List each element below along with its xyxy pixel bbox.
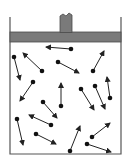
gas-particle: [20, 80, 35, 101]
velocity-arrow-icon: [20, 82, 33, 101]
particle-dot-icon: [12, 55, 17, 60]
particle-dot-icon: [31, 80, 36, 85]
gas-particles: [12, 47, 113, 154]
gas-particle: [29, 115, 53, 127]
velocity-arrow-icon: [87, 144, 111, 152]
particle-dot-icon: [108, 96, 113, 101]
gas-particle: [59, 83, 64, 108]
particle-dot-icon: [79, 87, 84, 92]
particle-dot-icon: [85, 142, 90, 147]
piston: [10, 13, 121, 42]
gas-particle: [107, 77, 112, 100]
gas-particle: [46, 47, 73, 52]
particle-dot-icon: [40, 69, 45, 74]
velocity-arrow-icon: [95, 86, 105, 109]
particle-dot-icon: [49, 123, 54, 128]
particle-dot-icon: [56, 60, 61, 65]
velocity-arrow-icon: [58, 62, 79, 73]
velocity-arrow-icon: [43, 102, 57, 118]
gas-particle: [85, 142, 111, 152]
gas-particle: [93, 84, 105, 109]
velocity-arrow-icon: [93, 51, 104, 71]
gas-particle: [68, 126, 80, 153]
gas-particle: [12, 55, 20, 80]
particle-dot-icon: [41, 100, 46, 105]
particle-dot-icon: [93, 84, 98, 89]
gas-particle: [79, 87, 94, 110]
velocity-arrow-icon: [70, 126, 80, 151]
particle-dot-icon: [69, 47, 74, 52]
gas-particle: [90, 123, 110, 139]
particle-dot-icon: [15, 117, 20, 122]
particle-dot-icon: [90, 135, 95, 140]
velocity-arrow-icon: [17, 119, 23, 145]
velocity-arrow-icon: [29, 115, 51, 125]
piston-plate: [10, 32, 121, 42]
velocity-arrow-icon: [46, 47, 71, 49]
velocity-arrow-icon: [23, 53, 42, 71]
velocity-arrow-icon: [107, 77, 110, 98]
velocity-arrow-icon: [81, 89, 94, 110]
particle-dot-icon: [59, 104, 64, 109]
piston-stem: [60, 13, 72, 33]
particle-dot-icon: [68, 149, 73, 154]
velocity-arrow-icon: [92, 123, 110, 137]
particle-dot-icon: [34, 132, 39, 137]
gas-particle: [41, 100, 57, 118]
velocity-arrow-icon: [14, 57, 20, 80]
gas-particle: [15, 117, 23, 145]
gas-particle: [34, 132, 56, 144]
gas-particle: [23, 53, 44, 73]
velocity-arrow-icon: [36, 134, 56, 144]
gas-particle: [56, 60, 79, 73]
gas-particle: [91, 51, 104, 73]
particle-dot-icon: [91, 69, 96, 74]
gas-cylinder-diagram: [0, 0, 127, 166]
